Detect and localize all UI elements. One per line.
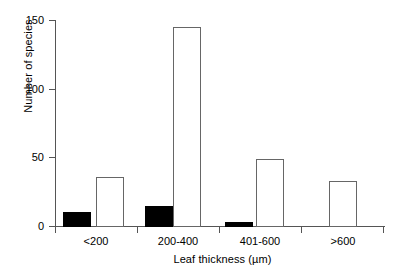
bar-filled-lt200 <box>63 212 91 227</box>
y-tick-label-100: 100 <box>4 84 44 95</box>
y-tick-150 <box>49 20 55 21</box>
x-tick-1 <box>137 227 138 233</box>
bar-open-gt600 <box>329 181 357 227</box>
y-tick-50 <box>49 157 55 158</box>
x-tick-label-gt600: >600 <box>303 235 383 247</box>
figure: Number of species 0 50 100 150 <200 200-… <box>0 0 395 275</box>
x-tick-label-lt200: <200 <box>56 235 136 247</box>
x-tick-label-200-400: 200-400 <box>138 235 218 247</box>
y-axis-line <box>55 20 56 227</box>
x-tick-3 <box>301 227 302 233</box>
bar-open-401-600 <box>256 159 284 227</box>
x-tick-label-401-600: 401-600 <box>220 235 300 247</box>
bar-open-lt200 <box>96 177 124 227</box>
bar-filled-401-600 <box>225 222 253 227</box>
x-tick-2 <box>219 227 220 233</box>
y-tick-label-50: 50 <box>4 152 44 163</box>
y-tick-label-150: 150 <box>4 15 44 26</box>
x-axis-title: Leaf thickness (µm) <box>55 253 390 265</box>
y-tick-label-0: 0 <box>4 221 44 232</box>
bar-open-200-400 <box>173 27 201 227</box>
y-tick-100 <box>49 89 55 90</box>
x-tick-0 <box>55 227 56 233</box>
bar-filled-200-400 <box>145 206 173 227</box>
x-tick-4 <box>383 227 384 233</box>
